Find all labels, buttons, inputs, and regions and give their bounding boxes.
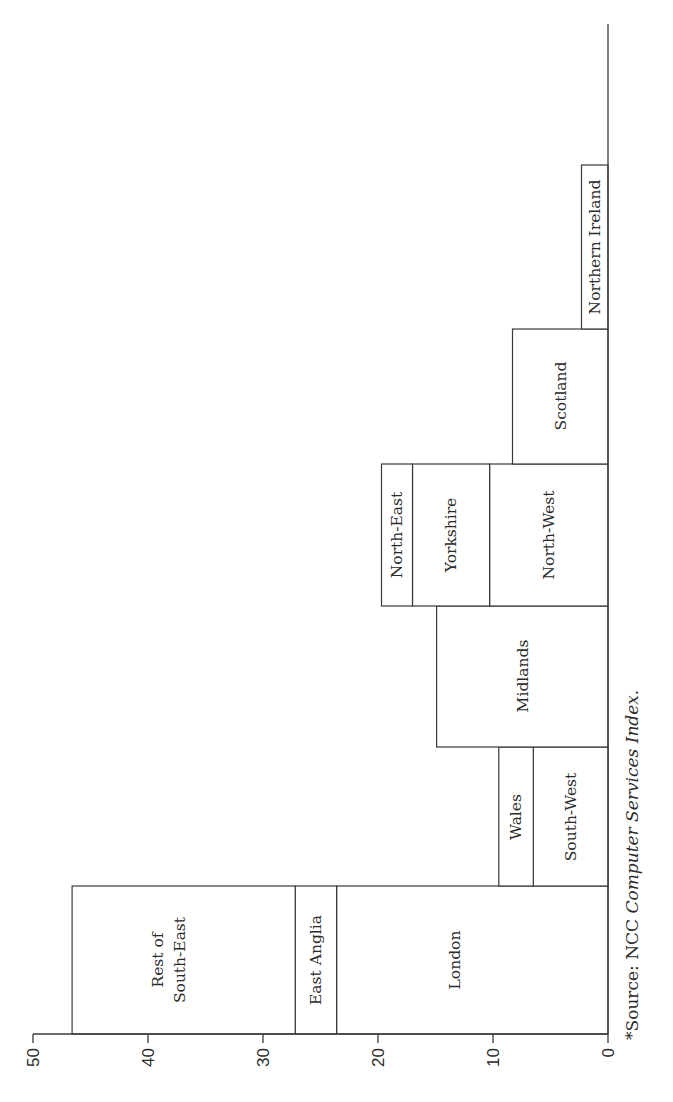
- label-midlands: Midlands: [514, 640, 532, 713]
- label-rest-of-south-east-line2: South-East: [171, 916, 189, 1003]
- bar-segments: [72, 165, 608, 1034]
- source-note: *Source: NCC Computer Services Index.: [622, 690, 642, 1040]
- label-north-west: North-West: [540, 490, 558, 580]
- label-rest-of-south-east-line1: Rest of: [149, 931, 167, 987]
- label-east-anglia: East Anglia: [307, 915, 325, 1005]
- label-northern-ireland: Northern Ireland: [586, 180, 604, 315]
- value-axis-ticks: 01020304050: [24, 1034, 618, 1067]
- source-org: NCC: [622, 914, 642, 960]
- bar-segment-london: [337, 886, 608, 1034]
- tick-label: 10: [484, 1048, 503, 1067]
- tick-label: 50: [24, 1048, 43, 1067]
- label-north-east: North-East: [388, 491, 406, 578]
- tick-label: 0: [599, 1048, 618, 1057]
- source-title: Computer Services Index.: [622, 690, 642, 914]
- label-south-west: South-West: [562, 772, 580, 861]
- tick-label: 20: [369, 1048, 388, 1067]
- tick-label: 40: [139, 1048, 158, 1067]
- label-yorkshire: Yorkshire: [442, 498, 460, 574]
- source-prefix: *Source:: [622, 960, 642, 1040]
- label-london: London: [446, 931, 464, 990]
- tick-label: 30: [254, 1048, 273, 1067]
- label-wales: Wales: [507, 794, 525, 840]
- label-scotland: Scotland: [552, 361, 570, 430]
- regional-distribution-chart: 01020304050 Rest of South-East East Angl…: [0, 0, 673, 1102]
